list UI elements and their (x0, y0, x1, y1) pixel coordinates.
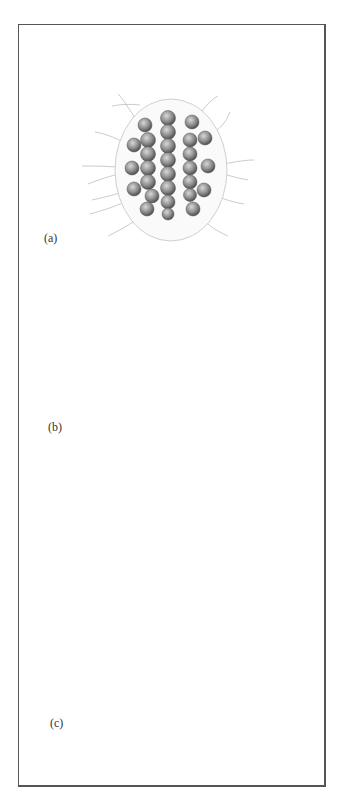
panel-label-a: (a) (44, 231, 57, 246)
illustration-canvas (0, 0, 343, 804)
panel-label-c: (c) (50, 716, 63, 731)
panel-label-b: (b) (48, 420, 62, 435)
organism-a (82, 94, 254, 241)
